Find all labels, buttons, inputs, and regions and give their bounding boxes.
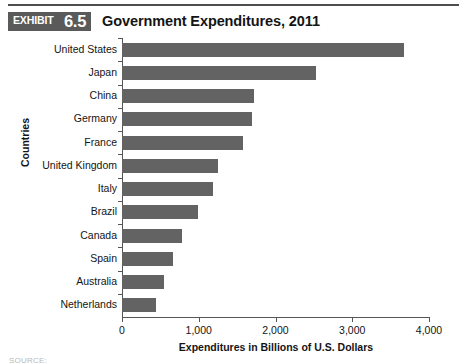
bar — [122, 275, 164, 289]
bar — [122, 205, 198, 219]
category-label: Australia — [5, 275, 117, 287]
bar — [122, 66, 316, 80]
x-axis-tick-label: 4,000 — [399, 324, 459, 336]
bar — [122, 182, 213, 196]
bar — [122, 229, 182, 243]
bar-chart: United StatesJapanChinaGermanyFranceUnit… — [0, 0, 467, 363]
x-axis-tick — [276, 317, 277, 322]
category-label: Japan — [5, 66, 117, 78]
x-axis-tick-label: 1,000 — [169, 324, 229, 336]
category-label: China — [5, 89, 117, 101]
category-label: Italy — [5, 182, 117, 194]
y-axis-tick — [118, 154, 122, 155]
y-axis-tick — [118, 131, 122, 132]
x-axis-tick — [122, 317, 123, 322]
y-axis-tick — [118, 108, 122, 109]
bar — [122, 112, 252, 126]
bar — [122, 298, 156, 312]
category-label: Netherlands — [5, 298, 117, 310]
bar — [122, 43, 404, 57]
y-axis-tick — [118, 38, 122, 39]
y-axis-tick — [118, 61, 122, 62]
category-label: Spain — [5, 252, 117, 264]
category-label: United States — [5, 43, 117, 55]
y-axis-tick — [118, 271, 122, 272]
y-axis-tick — [118, 224, 122, 225]
source-note: SOURCE: — [9, 356, 47, 363]
bar — [122, 89, 254, 103]
x-axis-tick-label: 3,000 — [322, 324, 382, 336]
x-axis-tick — [199, 317, 200, 322]
x-axis-tick — [429, 317, 430, 322]
x-axis-tick — [352, 317, 353, 322]
y-axis-tick — [118, 201, 122, 202]
bar — [122, 252, 173, 266]
x-axis-tick-label: 0 — [92, 324, 152, 336]
y-axis-tick — [118, 85, 122, 86]
bar — [122, 136, 243, 150]
y-axis-tick — [118, 294, 122, 295]
bar — [122, 159, 218, 173]
y-axis-tick — [118, 247, 122, 248]
x-axis-title: Expenditures in Billions of U.S. Dollars — [122, 341, 430, 353]
y-axis-tick — [118, 178, 122, 179]
x-axis-tick-label: 2,000 — [246, 324, 306, 336]
y-axis-title: Countries — [19, 141, 31, 167]
category-label: Brazil — [5, 205, 117, 217]
category-label: Canada — [5, 229, 117, 241]
